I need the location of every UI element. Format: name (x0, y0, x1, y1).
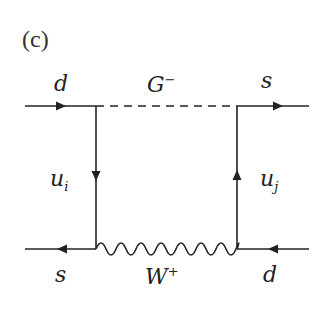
label-d-bottom: d (263, 264, 277, 286)
arrow-up-icon (233, 170, 242, 180)
label-s-bottom: s (55, 264, 66, 286)
label-uj: uj (260, 168, 278, 193)
label-w-boson: W+ (145, 265, 179, 288)
label-s-top: s (261, 70, 272, 92)
label-ui: ui (50, 168, 68, 193)
arrow-down-icon (92, 171, 101, 181)
label-d-top: d (54, 73, 68, 95)
feynman-diagram: (c) d G− s ui uj s W+ d (0, 0, 326, 310)
arrow-left-icon (57, 245, 67, 254)
arrow-left-icon (268, 245, 278, 254)
arrow-right-icon (273, 102, 283, 111)
arrow-right-icon (56, 102, 66, 111)
line-w-boson (96, 243, 239, 255)
label-goldstone: G− (147, 73, 175, 96)
panel-label: (c) (22, 27, 49, 51)
